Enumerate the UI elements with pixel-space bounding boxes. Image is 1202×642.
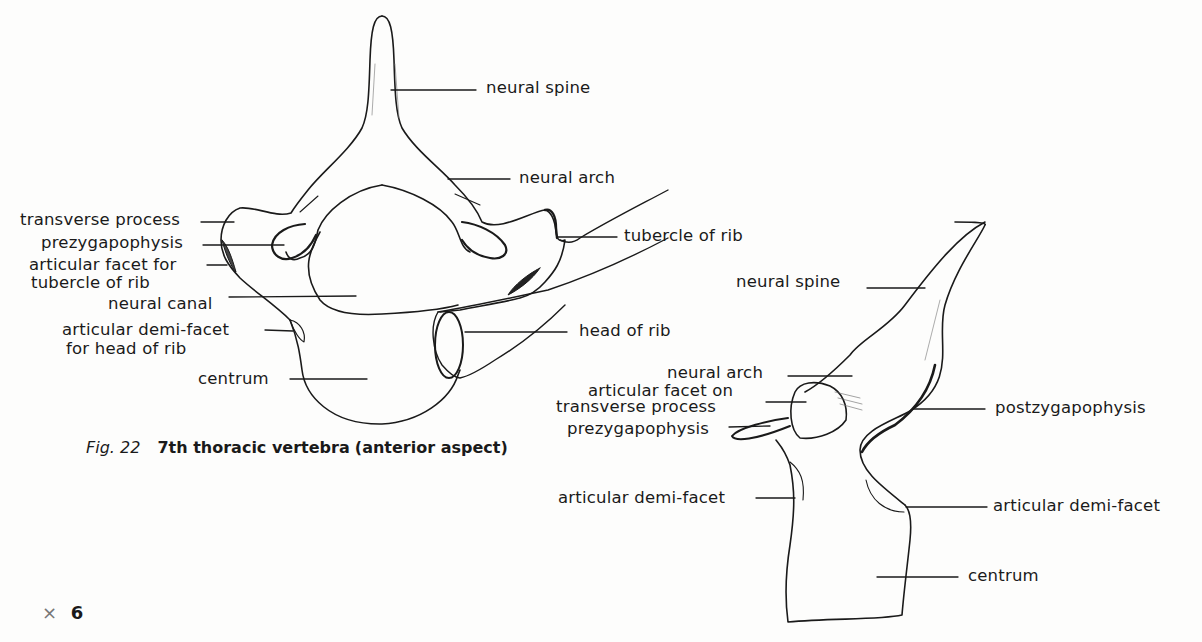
label-postzygapophysis: postzygapophysis xyxy=(995,400,1146,417)
lateral-leader-lines xyxy=(729,288,987,577)
label-transverse-process: transverse process xyxy=(20,212,180,229)
figure-caption: Fig. 22 7th thoracic vertebra (anterior … xyxy=(86,438,508,457)
anterior-leader-lines xyxy=(201,90,617,379)
magnification-note: × 6 xyxy=(42,602,83,623)
label-demi-facet-lateral-right: articular demi-facet xyxy=(993,498,1160,515)
figure-title: 7th thoracic vertebra xyxy=(157,438,349,457)
figure-number: Fig. 22 xyxy=(86,438,140,457)
label-demi-facet-line2: for head of rib xyxy=(66,341,186,358)
multiply-symbol: × xyxy=(42,602,57,623)
label-centrum-lateral: centrum xyxy=(968,568,1039,585)
rib-outline xyxy=(433,190,668,378)
label-neural-arch-anterior: neural arch xyxy=(519,170,615,187)
label-neural-spine-lateral: neural spine xyxy=(736,274,840,291)
label-demi-facet-lateral-left: articular demi-facet xyxy=(558,490,725,507)
figure-aspect: (anterior aspect) xyxy=(355,438,508,457)
label-facet-on-tp-line2: transverse process xyxy=(556,399,716,416)
label-articular-facet-line1: articular facet for xyxy=(29,257,177,274)
label-head-of-rib: head of rib xyxy=(579,323,671,340)
magnification-value: 6 xyxy=(71,602,84,623)
label-prezygapophysis-anterior: prezygapophysis xyxy=(41,235,183,252)
label-articular-facet-line2: tubercle of rib xyxy=(31,275,150,292)
label-centrum-anterior: centrum xyxy=(198,371,269,388)
label-neural-arch-lateral: neural arch xyxy=(667,365,763,382)
label-tubercle-of-rib: tubercle of rib xyxy=(624,228,743,245)
label-neural-canal: neural canal xyxy=(108,296,213,313)
label-demi-facet-line1: articular demi-facet xyxy=(62,322,229,339)
label-prezygapophysis-lateral: prezygapophysis xyxy=(567,421,709,438)
label-neural-spine-anterior: neural spine xyxy=(486,80,590,97)
